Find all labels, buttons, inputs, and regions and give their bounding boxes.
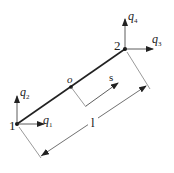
length-label: l — [91, 115, 95, 130]
node-1-label: 1 — [9, 118, 16, 133]
node-2-label: 2 — [114, 38, 121, 53]
s-extension-line — [71, 87, 86, 107]
length-extension-1 — [19, 127, 41, 158]
midpoint-label: o — [67, 73, 73, 85]
s-axis-arrow — [86, 83, 118, 106]
s-label: s — [109, 71, 113, 83]
q4-label: q4 — [128, 9, 138, 25]
beam-element-diagram: 1 2 o q1 q2 q3 q4 s l — [0, 0, 174, 173]
q2-label: q2 — [20, 85, 30, 101]
length-extension-2 — [127, 52, 150, 89]
q3-label: q3 — [152, 32, 162, 48]
q1-label: q1 — [43, 113, 53, 129]
diagram-canvas: 1 2 o q1 q2 q3 q4 s l — [0, 0, 174, 173]
